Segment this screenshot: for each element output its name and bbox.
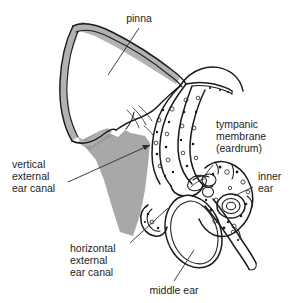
petrous-bone-stipple — [205, 166, 250, 230]
canal-aperture-lip — [192, 86, 232, 94]
label-inner-ear: inner ear — [258, 170, 282, 194]
cochlea-inner-ring — [227, 202, 236, 210]
label-horizontal-canal-line2: external — [70, 254, 107, 266]
label-pinna: pinna — [126, 12, 152, 24]
canal-medial-wall-outer — [190, 90, 205, 185]
tympanic-and-middle-ear — [141, 172, 256, 270]
pinna-left-cartilage — [60, 26, 79, 141]
label-tympanic-membrane-line2: membrane — [216, 130, 266, 142]
canal-medial-wall — [178, 86, 192, 184]
skull-contour-top — [180, 67, 243, 91]
label-horizontal-canal-line1: horizontal — [70, 242, 116, 254]
semicircular-canal-2 — [203, 187, 214, 197]
pinna-rim-inner-edge — [76, 30, 182, 87]
eustachian-tube-end — [249, 263, 256, 270]
petrous-bone-lobes — [215, 162, 218, 174]
petrous-bone-lobe-2 — [232, 165, 234, 179]
concha-crease-4 — [144, 126, 153, 135]
label-inner-ear-line1: inner — [258, 170, 282, 182]
label-tympanic-membrane-line1: tympanic — [216, 118, 258, 130]
label-inner-ear-line2: ear — [258, 182, 274, 194]
pinna-cartilage-band — [73, 22, 180, 84]
label-tympanic-membrane-line3: (eardrum) — [216, 142, 262, 154]
label-tympanic-membrane: tympanic membrane (eardrum) — [216, 118, 266, 154]
leader-middle-ear — [174, 250, 194, 281]
eustachian-tube-lower — [205, 206, 249, 269]
label-vertical-external-ear-canal: vertical external ear canal — [12, 158, 55, 194]
cochlea-outer-ring — [217, 194, 245, 218]
label-horizontal-canal-line3: ear canal — [70, 266, 113, 278]
label-vertical-canal-line3: ear canal — [12, 182, 55, 194]
label-horizontal-external-ear-canal: horizontal external ear canal — [70, 242, 116, 278]
canal-outer-wall — [152, 86, 180, 184]
inner-ear-structures — [199, 162, 253, 239]
ear-anatomy-illustration: pinna tympanic membrane (eardrum) inner … — [0, 0, 295, 303]
label-vertical-canal-line2: external — [12, 170, 49, 182]
label-middle-ear: middle ear — [149, 284, 199, 296]
ear-anatomy-diagram: pinna tympanic membrane (eardrum) inner … — [0, 0, 295, 303]
concha-crease-3 — [139, 106, 152, 121]
cochlea-mid-ring — [222, 199, 240, 214]
label-vertical-canal-line1: vertical — [12, 158, 45, 170]
middle-ear-neck-left — [171, 186, 183, 196]
